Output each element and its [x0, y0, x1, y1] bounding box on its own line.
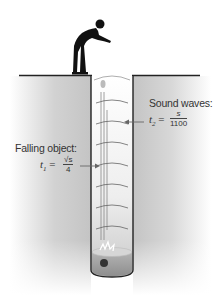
- subscript: 1: [43, 165, 47, 173]
- water-surface: [92, 248, 132, 257]
- falling-object-start: [101, 80, 106, 88]
- falling-object-equation: t1 =: [40, 158, 56, 173]
- numerator: s: [170, 109, 187, 119]
- sound-waves-label: Sound waves:: [149, 97, 213, 109]
- ground-left: [10, 76, 91, 295]
- equals-sign: =: [158, 113, 164, 125]
- numerator: √s: [63, 155, 73, 165]
- denominator: 4: [63, 165, 73, 174]
- rock: [100, 259, 108, 267]
- denominator: 1100: [170, 119, 187, 128]
- falling-object-fraction: √s 4: [63, 155, 73, 174]
- subscript: 2: [152, 120, 156, 128]
- equals-sign: =: [49, 158, 55, 170]
- sound-waves-fraction: s 1100: [170, 109, 187, 128]
- person-silhouette: [72, 20, 111, 75]
- falling-object-label: Falling object:: [15, 142, 77, 154]
- well-shaft: [91, 75, 133, 277]
- sound-waves-equation: t2 =: [149, 113, 165, 128]
